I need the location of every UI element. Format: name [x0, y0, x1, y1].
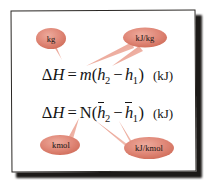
eq1-equals: =: [64, 65, 79, 85]
eq2-term1-overbar: [98, 102, 104, 103]
eq2-term2-subscript: 1: [133, 113, 138, 124]
eq2-h: H: [52, 103, 64, 123]
eq1-term2-symbol: h: [125, 65, 133, 85]
eq1-delta: Δ: [42, 65, 53, 85]
eq1-term1-subscript: 2: [105, 75, 110, 86]
callout-label-kj-per-kg: kJ/kg: [127, 33, 163, 43]
callout-label-kmol: kmol: [44, 140, 78, 150]
eq2-delta: Δ: [42, 103, 53, 123]
eq2-term2-symbol: h: [125, 103, 133, 122]
eq1-h: H: [52, 65, 64, 85]
eq2-equals: =: [64, 103, 79, 123]
eq2-operator: −: [111, 103, 125, 123]
eq2-term1-subscript: 2: [105, 113, 110, 124]
callout-label-kj-per-kmol: kJ/kmol: [125, 143, 173, 153]
eq2-term2-overbar: [125, 102, 131, 103]
eq1-operator: −: [111, 65, 125, 85]
eq1-coefficient: m: [80, 65, 92, 85]
eq1-term2-subscript: 1: [133, 75, 138, 86]
eq2-term2-overbar-group: h: [125, 103, 133, 123]
eq2-coefficient: N: [80, 103, 92, 123]
equation-enthalpy-mass-basis: ΔH=m(h2−h1)(kJ): [0, 65, 215, 85]
figure-root: kg kJ/kg kmol kJ/kmol ΔH=m(h2−h1)(kJ) ΔH…: [0, 0, 215, 190]
eq2-unit: (kJ): [144, 106, 173, 121]
eq1-unit: (kJ): [144, 68, 173, 83]
callout-label-kg: kg: [40, 34, 62, 44]
equation-enthalpy-mole-basis: ΔH=N(h2−h1)(kJ): [0, 103, 215, 123]
